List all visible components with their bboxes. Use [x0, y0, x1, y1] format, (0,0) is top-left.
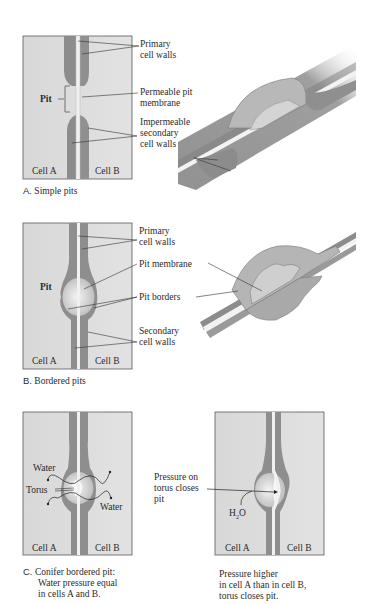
- panel-d-illustration: [0, 0, 376, 604]
- label-pressure-on-1: Pressure on: [154, 472, 198, 483]
- label-cell-b-panel-d: Cell B: [287, 543, 312, 553]
- h2o-h: H: [229, 508, 236, 518]
- label-pressure-on-2: torus closes: [154, 483, 199, 494]
- caption-d-line-2: in cell A than in cell B,: [219, 580, 306, 591]
- caption-d-line-3: torus closes pit.: [219, 591, 306, 602]
- caption-d-line-1: Pressure higher: [219, 569, 306, 580]
- label-h2o: H2O: [229, 508, 246, 522]
- h2o-o: O: [239, 508, 246, 518]
- caption-panel-d: Pressure higher in cell A than in cell B…: [219, 569, 306, 602]
- label-cell-a-panel-d: Cell A: [225, 543, 250, 553]
- label-pressure-on-3: pit: [154, 494, 164, 505]
